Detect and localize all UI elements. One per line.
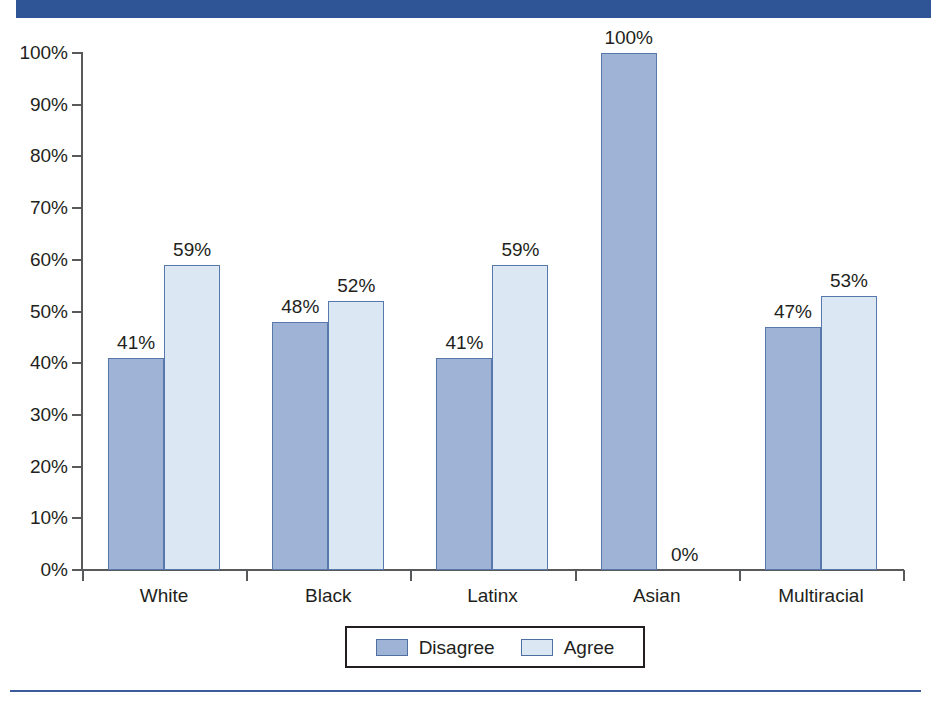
bar-value-label: 100%: [604, 28, 653, 47]
bar-value-label: 59%: [173, 240, 211, 259]
bar-group: 100%0%: [575, 53, 739, 570]
y-axis-tick-label: 90%: [4, 95, 68, 114]
y-axis-tick-label: 50%: [4, 302, 68, 321]
legend-label: Agree: [564, 638, 615, 657]
bar-value-label: 41%: [117, 333, 155, 352]
bar-slot: 59%: [492, 53, 548, 570]
bar-slot: 41%: [108, 53, 164, 570]
y-axis-tick-label: 80%: [4, 146, 68, 165]
bar-value-label: 48%: [281, 297, 319, 316]
chart-legend: DisagreeAgree: [345, 626, 645, 668]
x-axis-separator-tick: [903, 570, 905, 581]
bar-value-label: 41%: [445, 333, 483, 352]
bar-chart-figure: 0%10%20%30%40%50%60%70%80%90%100% 41%59%…: [0, 18, 931, 690]
y-axis-tick-label: 60%: [4, 250, 68, 269]
y-axis-tick-label: 0%: [4, 560, 68, 579]
y-axis-tick-mark: [72, 259, 81, 261]
y-axis-tick-label: 20%: [4, 457, 68, 476]
bar-slot: 0%: [657, 53, 713, 570]
bar-group-bars: 41%59%: [82, 53, 246, 570]
y-axis-labels: 0%10%20%30%40%50%60%70%80%90%100%: [0, 18, 68, 690]
y-axis-tick-mark: [72, 104, 81, 106]
y-axis-tick-label: 70%: [4, 198, 68, 217]
x-axis-separator-tick: [82, 570, 84, 581]
bar-slot: 59%: [164, 53, 220, 570]
bar-group: 48%52%: [246, 53, 410, 570]
bar-agree[interactable]: [164, 265, 220, 570]
legend-entry[interactable]: Agree: [521, 638, 615, 657]
bar-disagree[interactable]: [601, 53, 657, 570]
x-axis-category-label: Asian: [575, 586, 739, 605]
bar-group-bars: 100%0%: [575, 53, 739, 570]
y-axis-tick-label: 10%: [4, 508, 68, 527]
bar-group-bars: 41%59%: [410, 53, 574, 570]
y-axis-tick-mark: [72, 569, 81, 571]
bar-group-bars: 47%53%: [739, 53, 903, 570]
y-axis-tick-mark: [72, 207, 81, 209]
top-blue-band: [16, 0, 931, 18]
x-axis-separator-tick: [410, 570, 412, 581]
y-axis-tick-mark: [72, 311, 81, 313]
bar-slot: 48%: [272, 53, 328, 570]
bar-disagree[interactable]: [272, 322, 328, 570]
y-axis-tick-label: 100%: [4, 43, 68, 62]
x-axis-category-label: White: [82, 586, 246, 605]
bar-disagree[interactable]: [436, 358, 492, 570]
bar-disagree[interactable]: [765, 327, 821, 570]
bar-slot: 47%: [765, 53, 821, 570]
y-axis-tick-label: 30%: [4, 405, 68, 424]
bar-group: 41%59%: [82, 53, 246, 570]
bar-value-label: 47%: [774, 302, 812, 321]
bar-disagree[interactable]: [108, 358, 164, 570]
x-axis-separator-tick: [575, 570, 577, 581]
bar-group: 47%53%: [739, 53, 903, 570]
y-axis-tick-mark: [72, 362, 81, 364]
y-axis-tick-mark: [72, 52, 81, 54]
bar-value-label: 53%: [830, 271, 868, 290]
bar-value-label: 0%: [671, 545, 698, 564]
bar-slot: 41%: [436, 53, 492, 570]
x-axis-category-label: Multiracial: [739, 586, 903, 605]
y-axis-tick-mark: [72, 414, 81, 416]
y-axis-tick-mark: [72, 466, 81, 468]
x-axis-category-label: Black: [246, 586, 410, 605]
bar-agree[interactable]: [821, 296, 877, 570]
bar-agree[interactable]: [328, 301, 384, 570]
bar-group-bars: 48%52%: [246, 53, 410, 570]
y-axis-tick-mark: [72, 517, 81, 519]
plot-area: 41%59%48%52%41%59%100%0%47%53%: [82, 53, 903, 570]
bar-agree[interactable]: [492, 265, 548, 570]
x-axis-category-label: Latinx: [410, 586, 574, 605]
disagree-swatch: [376, 639, 408, 656]
bar-value-label: 52%: [337, 276, 375, 295]
y-axis-tick-label: 40%: [4, 353, 68, 372]
bar-slot: 52%: [328, 53, 384, 570]
bottom-blue-rule: [10, 690, 921, 692]
bar-slot: 100%: [601, 53, 657, 570]
bar-value-label: 59%: [501, 240, 539, 259]
x-axis-separator-tick: [739, 570, 741, 581]
y-axis-tick-mark: [72, 155, 81, 157]
legend-label: Disagree: [419, 638, 495, 657]
legend-entry[interactable]: Disagree: [376, 638, 495, 657]
x-axis-separator-tick: [246, 570, 248, 581]
bar-slot: 53%: [821, 53, 877, 570]
agree-swatch: [521, 639, 553, 656]
bar-group: 41%59%: [410, 53, 574, 570]
